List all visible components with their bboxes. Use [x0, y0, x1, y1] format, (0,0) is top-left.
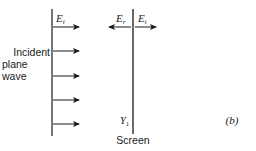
screen-caption: Screen — [116, 134, 149, 146]
incident-text-line-3: wave — [1, 70, 27, 82]
incident-text-line-2: plane — [2, 58, 28, 70]
screen-admittance-label: Y1 — [120, 115, 130, 128]
incident-arrows — [53, 27, 79, 124]
diagram-figure: Ei Incident plane wave Er Et Y1 Screen (… — [0, 0, 256, 151]
incident-text-line-1: Incident — [13, 46, 50, 58]
transmitted-field-label: Et — [137, 12, 148, 26]
panel-label: (b) — [226, 114, 239, 127]
reflected-field-label: Er — [115, 12, 126, 26]
incident-field-label: Ei — [55, 12, 65, 26]
